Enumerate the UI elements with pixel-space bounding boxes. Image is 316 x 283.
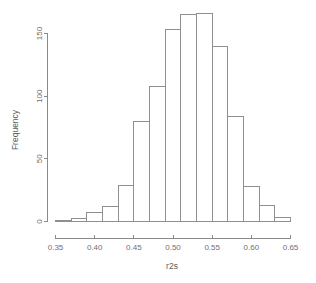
x-axis: 0.350.400.450.500.550.600.65 (48, 235, 299, 252)
histogram-bar (275, 218, 291, 222)
x-axis-tick-label: 0.35 (48, 243, 64, 252)
bars-group (56, 13, 291, 221)
x-axis-tick-label: 0.45 (126, 243, 142, 252)
histogram-bar (197, 13, 213, 221)
histogram-bar (103, 206, 119, 221)
x-axis-title: r2s (166, 261, 178, 271)
chart-canvas: 050100150 0.350.400.450.500.550.600.65 r… (0, 0, 316, 283)
histogram-bar (150, 86, 166, 221)
y-axis-tick-label: 150 (35, 26, 44, 40)
histogram-bar (134, 121, 150, 221)
histogram-bar (165, 30, 181, 222)
histogram-bar (56, 220, 72, 221)
histogram-bar (212, 46, 228, 221)
y-axis-tick-label: 100 (35, 89, 44, 103)
y-axis-tick-label: 0 (35, 219, 44, 224)
histogram-bar (71, 219, 87, 222)
histogram-bar (259, 205, 275, 221)
histogram-bar (244, 186, 260, 221)
histogram-plot: 050100150 0.350.400.450.500.550.600.65 r… (0, 0, 316, 283)
histogram-bar (118, 185, 134, 221)
y-axis-tick-label: 50 (35, 154, 44, 163)
x-axis-tick-label: 0.65 (283, 243, 299, 252)
y-axis: 050100150 (35, 26, 48, 223)
x-axis-tick-label: 0.40 (87, 243, 103, 252)
x-axis-tick-label: 0.55 (204, 243, 220, 252)
histogram-bar (87, 213, 103, 222)
y-axis-title: Frequency (10, 109, 20, 150)
histogram-bar (181, 15, 197, 222)
x-axis-tick-label: 0.50 (165, 243, 181, 252)
histogram-bar (228, 116, 244, 221)
x-axis-tick-label: 0.60 (244, 243, 260, 252)
